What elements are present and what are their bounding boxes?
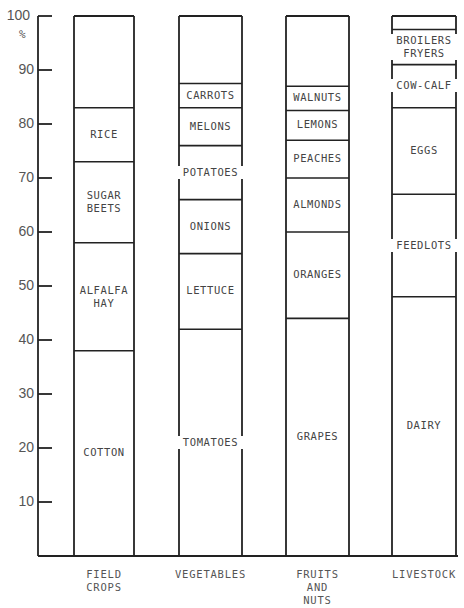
y-tick-label: 80 [4,115,34,131]
x-category-label: FRUITS AND NUTS [266,568,369,607]
segment-label-almonds: ALMONDS [283,198,352,211]
segment-label-alfalfa-hay: ALFALFA HAY [71,284,137,310]
segment-label-lettuce: LETTUCE [176,284,245,297]
y-tick-label: 100 [0,7,30,23]
segment-label-potatoes: POTATOES [176,166,245,179]
segment-label-peaches: PEACHES [283,152,352,165]
segment-label-melons: MELONS [176,120,245,133]
segment-label-feedlots: FEEDLOTS [389,239,459,252]
y-tick-label: 90 [4,61,34,77]
segment-label-cotton: COTTON [71,446,137,459]
y-tick-label: 30 [4,385,34,401]
segment-label-oranges: ORANGES [283,268,352,281]
x-category-label: VEGETABLES [159,568,262,581]
y-tick-label: 60 [4,223,34,239]
segment-label-grapes: GRAPES [283,430,352,443]
segment-label-cow-calf: COW-CALF [389,79,459,92]
segment-label-lemons: LEMONS [283,118,352,131]
segment-label-tomatoes: TOMATOES [176,436,245,449]
segment-label-eggs: EGGS [389,144,459,157]
x-category-label: FIELD CROPS [54,568,154,594]
segment-label-broilers-fryers: BROILERS FRYERS [389,34,459,60]
y-tick-label: 40 [4,331,34,347]
segment-label-dairy: DAIRY [389,419,459,432]
stacked-percent-bar-chart: 102030405060708090100%COTTONALFALFA HAYS… [0,0,464,608]
y-tick-label: 20 [4,439,34,455]
segment-label-onions: ONIONS [176,220,245,233]
segment-label-carrots: CARROTS [176,89,245,102]
y-tick-label: 10 [4,493,34,509]
y-tick-label: 50 [4,277,34,293]
segment-label-walnuts: WALNUTS [283,91,352,104]
segment-label-rice: RICE [71,128,137,141]
y-unit-label: % [19,28,26,41]
y-tick-label: 70 [4,169,34,185]
x-category-label: LIVESTOCK [372,568,464,581]
segment-label-sugar-beets: SUGAR BEETS [71,189,137,215]
